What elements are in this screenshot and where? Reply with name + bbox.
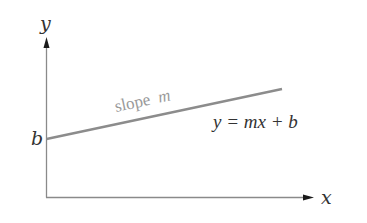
slope-label: slope — [113, 90, 152, 116]
equation-label: y = mx + b — [211, 111, 298, 132]
slope-annotation: slope m — [113, 86, 172, 116]
x-axis-arrowhead-icon — [303, 195, 314, 201]
linear-function-diagram: y x b slope m y = mx + b — [0, 0, 367, 223]
y-axis-label: y — [39, 12, 51, 34]
y-axis-arrowhead-icon — [44, 37, 50, 48]
intercept-label: b — [31, 127, 43, 149]
svg-text:slope m: slope m — [113, 86, 172, 116]
x-axis-label: x — [321, 186, 332, 208]
slope-symbol: m — [156, 86, 172, 107]
